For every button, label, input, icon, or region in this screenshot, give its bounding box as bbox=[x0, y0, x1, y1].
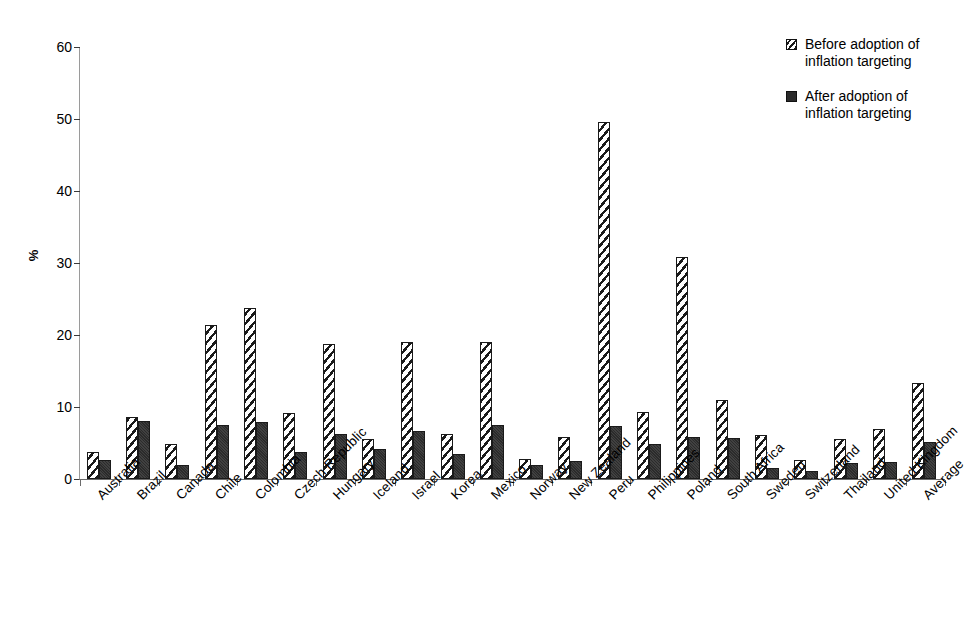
bar-group bbox=[676, 47, 700, 479]
bar-group bbox=[401, 47, 425, 479]
bar-group bbox=[480, 47, 504, 479]
x-axis-tick-mark bbox=[80, 480, 81, 486]
bar-group bbox=[87, 47, 111, 479]
chart-legend: Before adoption of inflation targeting A… bbox=[786, 36, 958, 140]
bar-after bbox=[453, 454, 465, 479]
bar-group bbox=[637, 47, 661, 479]
y-axis-tick-label: 10 bbox=[38, 400, 72, 414]
legend-item-after-line1: After adoption of bbox=[805, 88, 958, 105]
y-axis-tick-label: 60 bbox=[38, 40, 72, 54]
bar-group bbox=[362, 47, 386, 479]
y-axis-tick-label: 20 bbox=[38, 328, 72, 342]
bar-before bbox=[598, 122, 610, 479]
bar-before bbox=[637, 412, 649, 479]
legend-item-before-line1: Before adoption of bbox=[805, 36, 958, 53]
bar-after bbox=[649, 444, 661, 479]
bar-after bbox=[256, 422, 268, 479]
bar-group bbox=[165, 47, 189, 479]
bar-group bbox=[205, 47, 229, 479]
legend-item-after-line2: inflation targeting bbox=[805, 105, 958, 122]
bar-group bbox=[283, 47, 307, 479]
bar-before bbox=[480, 342, 492, 479]
y-axis-tick-label: 0 bbox=[38, 472, 72, 486]
bar-before bbox=[165, 444, 177, 479]
y-axis-tick-label: 40 bbox=[38, 184, 72, 198]
y-axis-tick-label: 30 bbox=[38, 256, 72, 270]
bar-group bbox=[441, 47, 465, 479]
bar-before bbox=[401, 342, 413, 479]
bar-before bbox=[676, 257, 688, 479]
legend-item-before-line2: inflation targeting bbox=[805, 53, 958, 70]
bar-group bbox=[558, 47, 582, 479]
filled-square-icon bbox=[786, 91, 797, 102]
bar-group bbox=[126, 47, 150, 479]
bar-after bbox=[217, 425, 229, 479]
bar-before bbox=[441, 434, 453, 479]
bar-group bbox=[244, 47, 268, 479]
hatched-square-icon bbox=[786, 39, 797, 50]
bar-group bbox=[598, 47, 622, 479]
bar-after bbox=[492, 425, 504, 479]
bar-after bbox=[728, 438, 740, 479]
legend-item-before[interactable]: Before adoption of inflation targeting bbox=[786, 36, 958, 70]
legend-item-after[interactable]: After adoption of inflation targeting bbox=[786, 88, 958, 122]
bar-group bbox=[519, 47, 543, 479]
bar-group bbox=[755, 47, 779, 479]
y-axis-tick-label: 50 bbox=[38, 112, 72, 126]
bar-after bbox=[413, 431, 425, 479]
bar-before bbox=[87, 452, 99, 479]
bar-before bbox=[205, 325, 217, 479]
bar-group bbox=[323, 47, 347, 479]
bar-group bbox=[716, 47, 740, 479]
bar-before bbox=[244, 308, 256, 479]
bar-after bbox=[138, 421, 150, 479]
